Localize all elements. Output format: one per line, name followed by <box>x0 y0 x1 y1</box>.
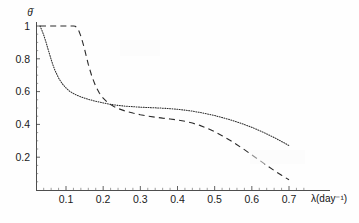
x-tick-label: 0.2 <box>96 193 111 205</box>
chart-series-dashed-curve <box>40 26 289 180</box>
x-tick-label: 0.7 <box>282 193 297 205</box>
x-axis-ticks: 0.10.20.30.40.50.60.7 <box>59 186 297 205</box>
y-tick-label: 0.2 <box>15 151 30 163</box>
x-tick-label: 0.1 <box>59 193 74 205</box>
y-tick-label: 1 <box>24 20 30 32</box>
x-tick-label: 0.3 <box>133 193 148 205</box>
chart-figure: 0.10.20.30.40.50.60.7 0.20.40.60.81 λ(da… <box>0 0 359 223</box>
y-tick-label: 0.8 <box>15 53 30 65</box>
chart-plot-area: 0.10.20.30.40.50.60.7 0.20.40.60.81 λ(da… <box>0 0 359 223</box>
y-tick-label: 0.6 <box>15 85 30 97</box>
chart-series-group <box>40 26 289 180</box>
chart-series-dotted-curve <box>40 26 289 146</box>
x-axis-minor-ticks <box>44 188 304 190</box>
x-axis-label: λ(day⁻¹) <box>311 193 347 204</box>
y-tick-label: 0.4 <box>15 118 30 130</box>
x-tick-label: 0.6 <box>245 193 260 205</box>
axes-group <box>36 22 330 191</box>
x-tick-label: 0.4 <box>170 193 185 205</box>
y-axis-label: θ̄ <box>27 7 34 18</box>
x-tick-label: 0.5 <box>207 193 222 205</box>
